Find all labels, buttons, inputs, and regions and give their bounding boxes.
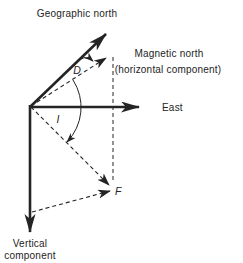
declination-angle-label: D: [73, 64, 81, 76]
total-field-vector: [31, 107, 109, 185]
magnetic-north-sublabel: (horizontal component): [115, 64, 222, 75]
magnetic-north-label: Magnetic north: [135, 48, 204, 59]
total-field-label: F: [115, 185, 122, 197]
geographic-north-arrow: [31, 34, 106, 106]
inclination-angle-label: I: [57, 113, 60, 125]
vertical-component-label-line1: Vertical: [13, 238, 47, 249]
vertical-to-f-closing-line: [32, 191, 110, 212]
inclination-angle-arc: [67, 80, 81, 142]
east-label: East: [162, 102, 183, 113]
vertical-component-label-line2: component: [4, 250, 55, 261]
geographic-north-label: Geographic north: [37, 8, 117, 19]
diagram-canvas: Geographic north Magnetic north (horizon…: [0, 0, 243, 263]
magnetic-north-vector: [31, 58, 106, 106]
magnetic-field-elements-diagram: Geographic north Magnetic north (horizon…: [0, 0, 243, 263]
